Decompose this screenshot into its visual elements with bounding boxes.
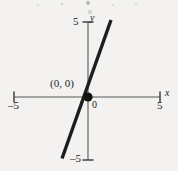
- origin-point-marker: [83, 92, 92, 101]
- coordinate-plane: [0, 0, 178, 171]
- plotted-line: [62, 20, 111, 159]
- graph-figure: –5 5 5 –5 y x 0 (0, 0): [0, 0, 178, 171]
